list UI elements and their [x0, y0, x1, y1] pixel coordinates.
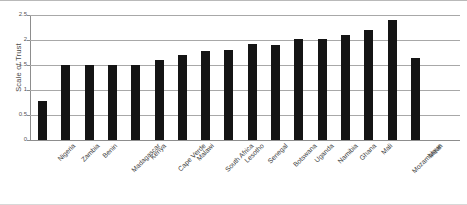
- bar: [364, 30, 373, 140]
- x-axis-label: Mean: [427, 142, 444, 159]
- x-axis-category-labels: NigeriaZambiaBeninMadagascarKenyaCape Ve…: [30, 142, 460, 204]
- x-axis-label: Botswana: [291, 142, 317, 168]
- gridline: [30, 140, 460, 141]
- y-axis-tick: [27, 15, 30, 16]
- y-axis-tick-label: 2.5: [5, 11, 27, 17]
- bar: [271, 45, 280, 140]
- x-axis-label: Nigeria: [56, 142, 76, 162]
- y-axis-tick: [27, 90, 30, 91]
- bar: [341, 35, 350, 140]
- bar: [388, 20, 397, 140]
- y-axis-tick-label: 2: [5, 36, 27, 42]
- y-axis-tick-label: 1: [5, 86, 27, 92]
- x-axis-label: Zambia: [79, 142, 100, 163]
- x-axis-label: Kenya: [148, 142, 167, 161]
- y-axis-tick: [27, 65, 30, 66]
- bar: [411, 58, 420, 141]
- x-axis-label: Namibia: [336, 142, 359, 165]
- y-axis-line: [30, 15, 31, 141]
- bar: [38, 101, 47, 140]
- bar: [155, 60, 164, 140]
- bar: [108, 65, 117, 140]
- bar: [178, 55, 187, 140]
- x-axis-label: Mali: [379, 142, 393, 156]
- gridline: [30, 15, 460, 16]
- bar: [294, 39, 303, 140]
- bar: [318, 39, 327, 140]
- y-axis-tick-label: 0.5: [5, 111, 27, 117]
- y-axis-tick-label: 1.5: [5, 61, 27, 67]
- bar: [248, 44, 257, 140]
- y-axis-tick: [27, 40, 30, 41]
- bar: [61, 65, 70, 140]
- y-axis-tick-label: 0: [5, 136, 27, 142]
- y-axis-tick: [27, 115, 30, 116]
- bar: [224, 50, 233, 140]
- chart-frame: Scale of Trust 00.511.522.5 NigeriaZambi…: [0, 0, 467, 205]
- bar: [131, 65, 140, 140]
- y-axis-title: Scale of Trust: [14, 13, 23, 123]
- bar: [85, 65, 94, 140]
- bar: [201, 51, 210, 140]
- x-axis-label: Senegal: [266, 142, 289, 165]
- y-axis-tick: [27, 140, 30, 141]
- x-axis-label: Benin: [101, 142, 118, 159]
- plot-area: 00.511.522.5: [30, 15, 460, 140]
- x-axis-label: Ghana: [358, 142, 377, 161]
